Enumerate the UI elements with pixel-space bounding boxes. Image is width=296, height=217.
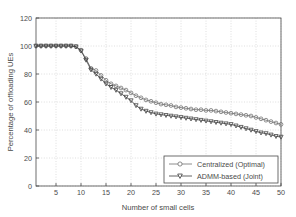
x-tick-10: 10	[77, 188, 85, 197]
chart-figure: 5101520253035404550020406080100120 Centr…	[0, 0, 296, 217]
y-tick-100: 100	[20, 42, 32, 51]
legend-label-admm: ADMM-based (Joint)	[197, 172, 263, 181]
y-tick-80: 80	[24, 70, 32, 79]
y-tick-20: 20	[24, 154, 32, 163]
y-tick-60: 60	[24, 98, 32, 107]
x-tick-35: 35	[202, 188, 210, 197]
x-tick-40: 40	[227, 188, 235, 197]
x-tick-30: 30	[177, 188, 185, 197]
x-tick-50: 50	[277, 188, 285, 197]
legend-label-centralized: Centralized (Optimal)	[197, 160, 265, 169]
x-tick-45: 45	[252, 188, 260, 197]
y-tick-40: 40	[24, 126, 32, 135]
chart-legend: Centralized (Optimal)ADMM-based (Joint)	[164, 156, 278, 183]
data-series	[34, 44, 283, 139]
offloading-ues-line-chart: 5101520253035404550020406080100120 Centr…	[0, 0, 296, 217]
y-tick-120: 120	[20, 14, 32, 23]
y-axis-label: Percentage of offloading UEs	[6, 52, 15, 151]
x-tick-5: 5	[54, 188, 58, 197]
x-tick-15: 15	[102, 188, 110, 197]
y-tick-0: 0	[28, 182, 32, 191]
x-tick-20: 20	[127, 188, 135, 197]
x-axis-label: Number of small cells	[122, 203, 195, 212]
series-admm	[34, 44, 283, 139]
x-tick-25: 25	[152, 188, 160, 197]
